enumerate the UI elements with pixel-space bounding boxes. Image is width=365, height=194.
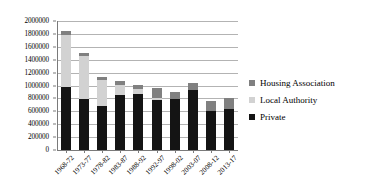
y-tick-label: 1400000 (25, 56, 49, 64)
bar-segment (79, 56, 89, 99)
legend-item[interactable]: Private (249, 108, 363, 125)
y-tick-label: 200000 (28, 133, 49, 141)
x-tick-mark (193, 150, 194, 153)
bar-segment (115, 95, 125, 150)
bar-segment (152, 100, 162, 150)
x-axis: 1968-721973-771978-821983-871988-921992-… (57, 150, 238, 194)
y-tick-label: 2000000 (25, 17, 49, 25)
y-tick-label: 1800000 (25, 30, 49, 38)
bar-column (133, 85, 143, 150)
bar-segment (61, 87, 71, 150)
plot-area (57, 21, 238, 150)
bar-segment (170, 92, 180, 99)
x-tick-mark (84, 150, 85, 153)
bar-column (224, 98, 234, 150)
x-tick-mark (157, 150, 158, 153)
y-tick-mark (53, 59, 56, 60)
bar-column (188, 83, 198, 150)
y-tick-mark (53, 111, 56, 112)
y-tick-label: 800000 (28, 94, 49, 102)
bar-segment (115, 85, 125, 95)
x-tick-mark (120, 150, 121, 153)
legend-label: Local Authority (260, 95, 317, 105)
bar-segment (188, 83, 198, 90)
bar-segment (61, 35, 71, 87)
x-tick-mark (138, 150, 139, 153)
bar-segment (97, 80, 107, 106)
bar-segment (206, 111, 216, 150)
legend-item[interactable]: Local Authority (249, 91, 363, 108)
bar-segment (133, 94, 143, 150)
bar-segment (170, 99, 180, 150)
y-tick-mark (53, 150, 56, 151)
bar-segment (79, 99, 89, 150)
y-tick-mark (53, 124, 56, 125)
legend-label: Housing Association (260, 78, 335, 88)
bar-segment (224, 98, 234, 108)
legend-swatch-icon (249, 97, 255, 103)
bar-column (152, 88, 162, 150)
y-tick-label: 1600000 (25, 43, 49, 51)
bar-segment (152, 88, 162, 98)
x-tick-mark (211, 150, 212, 153)
legend-swatch-icon (249, 80, 255, 86)
x-tick-mark (102, 150, 103, 153)
y-tick-label: 1200000 (25, 69, 49, 77)
chart-legend: Housing AssociationLocal AuthorityPrivat… (249, 74, 363, 125)
bar-segment (188, 90, 198, 150)
stacked-bar-chart: 2000000180000016000001400000120000010000… (0, 0, 365, 194)
x-tick-mark (229, 150, 230, 153)
bar-column (61, 31, 71, 150)
x-tick-mark (66, 150, 67, 153)
y-tick-mark (53, 72, 56, 73)
y-axis: 2000000180000016000001400000120000010000… (0, 21, 53, 150)
x-tick-label: 1988-92 (125, 154, 148, 177)
y-tick-mark (53, 85, 56, 86)
bar-segment (224, 109, 234, 150)
bar-column (115, 81, 125, 150)
bar-column (97, 77, 107, 150)
y-tick-mark (53, 21, 56, 22)
y-tick-label: 400000 (28, 120, 49, 128)
bar-segment (97, 106, 107, 150)
y-tick-label: 0 (46, 146, 50, 154)
legend-item[interactable]: Housing Association (249, 74, 363, 91)
bar-segment (206, 101, 216, 112)
legend-label: Private (260, 112, 286, 122)
y-tick-mark (53, 98, 56, 99)
bar-column (170, 92, 180, 150)
bars-layer (57, 21, 238, 150)
bar-column (206, 101, 216, 150)
y-tick-mark (53, 137, 56, 138)
y-tick-mark (53, 46, 56, 47)
x-tick-label: 1992-97 (144, 154, 167, 177)
y-tick-label: 1000000 (25, 82, 49, 90)
legend-swatch-icon (249, 114, 255, 120)
y-tick-label: 600000 (28, 107, 49, 115)
y-tick-mark (53, 33, 56, 34)
x-tick-mark (175, 150, 176, 153)
bar-column (79, 53, 89, 150)
